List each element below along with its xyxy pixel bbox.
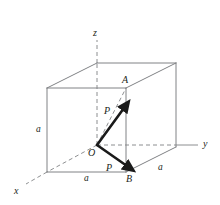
point-label-o: O: [88, 148, 95, 158]
point-label-b: B: [126, 174, 132, 184]
hidden-diagonal-o-to-a: [97, 88, 126, 145]
cube-edge-depth-top-left: [47, 63, 97, 88]
axis-label-y: y: [203, 139, 207, 149]
force-vectors-group: [97, 108, 127, 166]
vector-label-p-lower: P: [106, 163, 112, 173]
dimension-label-bottom: a: [84, 174, 89, 184]
figure-canvas: z y x A O B a a a P P: [0, 0, 220, 205]
force-vector-p-upper: [97, 108, 124, 145]
dimension-label-left: a: [36, 125, 41, 135]
point-label-a: A: [122, 75, 128, 85]
cube-diagram-svg: [0, 0, 220, 205]
dimension-label-right: a: [158, 163, 163, 173]
axis-label-z: z: [93, 28, 97, 38]
vector-label-p-upper: P: [104, 106, 110, 116]
cube-edge-depth-top-right: [126, 63, 176, 88]
axis-x-line: [26, 172, 47, 184]
cube-edge-depth-bottom-right: [126, 147, 176, 172]
axis-label-x: x: [14, 186, 18, 196]
